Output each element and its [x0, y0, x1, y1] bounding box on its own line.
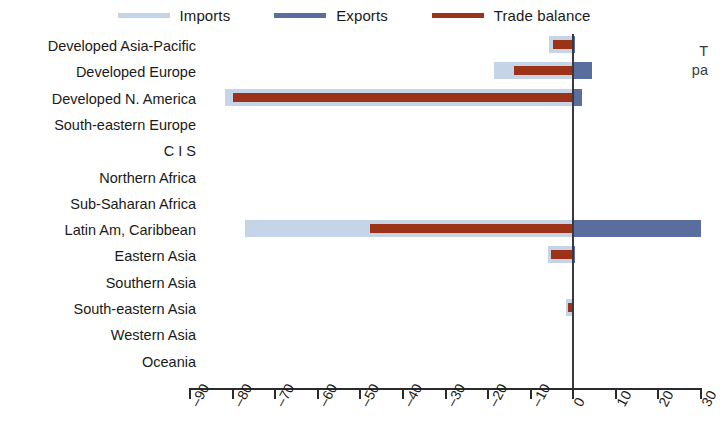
legend-swatch-imports-icon — [118, 13, 170, 18]
legend-label-trade-balance: Trade balance — [494, 7, 591, 24]
legend-label-exports: Exports — [336, 7, 388, 24]
chart-row — [0, 36, 708, 58]
chart-legend: Imports Exports Trade balance — [0, 0, 708, 30]
legend-label-imports: Imports — [180, 7, 231, 24]
side-note-line-2: pa — [664, 61, 708, 80]
chart-row — [0, 246, 708, 268]
x-axis-tick-label: 20 — [656, 388, 676, 408]
legend-item-trade-balance: Trade balance — [432, 7, 591, 24]
zero-axis-line — [572, 34, 574, 388]
chart-row — [0, 299, 708, 321]
bar-balance — [514, 66, 574, 75]
side-note-line-1: T — [664, 42, 708, 61]
chart-row — [0, 89, 708, 111]
legend-swatch-trade-balance-icon — [432, 13, 484, 18]
chart-row — [0, 220, 708, 242]
chart-row — [0, 273, 708, 295]
chart-row — [0, 115, 708, 137]
chart-row — [0, 352, 708, 374]
bars-layer — [0, 32, 708, 382]
bar-exports — [573, 89, 582, 106]
side-note-fragment: T pa — [664, 42, 708, 80]
chart-row — [0, 62, 708, 84]
bar-exports — [573, 62, 592, 79]
legend-item-exports: Exports — [274, 7, 388, 24]
chart-row — [0, 168, 708, 190]
chart-plot-area: Developed Asia-PacificDeveloped EuropeDe… — [0, 32, 708, 388]
chart-row — [0, 325, 708, 347]
bar-exports — [573, 220, 701, 237]
bar-balance — [551, 250, 573, 259]
value-axis: –90–80–70–60–50–40–30–20–100102030 — [0, 388, 708, 443]
x-axis-tick-label: 0 — [571, 395, 587, 408]
bar-balance — [370, 224, 574, 233]
chart-row — [0, 194, 708, 216]
bar-balance — [553, 40, 573, 49]
chart-row — [0, 141, 708, 163]
bar-balance — [233, 93, 574, 102]
legend-item-imports: Imports — [118, 7, 231, 24]
legend-swatch-exports-icon — [274, 13, 326, 18]
